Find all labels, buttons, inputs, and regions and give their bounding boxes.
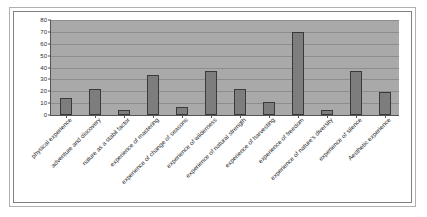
bar[interactable] [60, 98, 72, 115]
chart-figure: 01020304050607080 physical experienceadv… [0, 0, 427, 217]
y-tick-label-30: 30 [40, 76, 47, 82]
bar[interactable] [234, 89, 246, 115]
bar-slot [138, 20, 167, 115]
bar[interactable] [147, 75, 159, 115]
y-tick-label-80: 80 [40, 17, 47, 23]
bar-slot [312, 20, 341, 115]
bar[interactable] [205, 71, 217, 115]
y-tick-label-10: 10 [40, 100, 47, 106]
bar[interactable] [350, 71, 362, 115]
x-axis-tick-label: experience of natural strength [184, 116, 247, 179]
x-axis-tick-label: experience of mastering [108, 116, 160, 168]
y-tick-label-40: 40 [40, 65, 47, 71]
bar-slot [167, 20, 196, 115]
y-tick-label-50: 50 [40, 53, 47, 59]
x-axis-tick-label: experience of wilderness [164, 116, 217, 169]
bar[interactable] [379, 92, 391, 115]
bar-slot [51, 20, 80, 115]
x-axis-tick-label: adventure and discovery [49, 116, 102, 169]
bar-slot [341, 20, 370, 115]
plot-area: 01020304050607080 [50, 20, 399, 116]
bars-group [51, 20, 399, 115]
bar-slot [109, 20, 138, 115]
bar-slot [80, 20, 109, 115]
bar-slot [225, 20, 254, 115]
bar[interactable] [263, 102, 275, 115]
y-tick-label-70: 70 [40, 29, 47, 35]
y-tick-label-60: 60 [40, 41, 47, 47]
x-axis-tick-label: experience of harvesting [223, 116, 276, 169]
bar[interactable] [292, 32, 304, 115]
bar-slot [254, 20, 283, 115]
y-tick-label-0: 0 [44, 112, 47, 118]
bar[interactable] [89, 89, 101, 115]
bar[interactable] [176, 107, 188, 115]
x-axis-labels: physical experienceadventure and discove… [50, 116, 398, 206]
bar-slot [370, 20, 399, 115]
y-tick-label-20: 20 [40, 88, 47, 94]
bar-slot [283, 20, 312, 115]
bar-slot [196, 20, 225, 115]
